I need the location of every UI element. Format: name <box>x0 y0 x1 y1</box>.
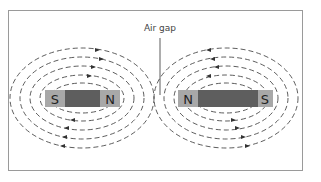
magnet-field-diagram: S N N S Air gap <box>0 0 321 182</box>
left-magnet-right-pole: N <box>105 92 115 107</box>
right-magnet-right-pole: S <box>261 92 269 107</box>
air-gap-label: Air gap <box>144 23 176 33</box>
right-magnet-left-pole: N <box>183 92 193 107</box>
left-magnet: S N <box>45 90 120 107</box>
left-magnet-left-pole: S <box>51 92 59 107</box>
right-magnet: N S <box>178 90 273 107</box>
